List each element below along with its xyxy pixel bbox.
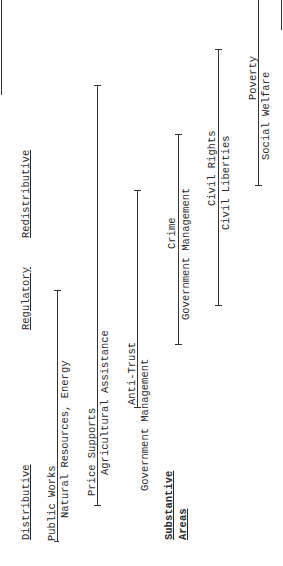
range-line-anti-trust — [137, 190, 138, 408]
axis-label-areas: Areas — [177, 508, 189, 540]
header-rule — [1, 0, 2, 95]
range-tick — [175, 134, 182, 135]
range-tick — [94, 505, 101, 506]
range-line-agriculture — [97, 85, 98, 506]
range-line-crime — [178, 134, 179, 345]
range-tick — [54, 290, 61, 291]
header-rule-right — [281, 0, 282, 30]
range-tick — [175, 344, 182, 345]
category-redistributive: Redistributive — [20, 150, 32, 238]
area-natural-resources: Natural Resources, Energy — [59, 360, 71, 518]
range-line-public-works — [57, 290, 58, 542]
range-tick — [215, 49, 222, 50]
category-distributive: Distributive — [20, 464, 32, 540]
category-regulatory: Regulatory — [20, 267, 32, 330]
range-tick — [54, 541, 59, 542]
area-agricultural-assistance: Agricultural Assistance — [99, 330, 111, 475]
area-social-welfare: Social Welfare — [260, 72, 272, 160]
range-line-civil-rights — [218, 49, 219, 306]
range-tick — [255, 185, 262, 186]
range-tick — [134, 190, 141, 191]
range-tick — [215, 305, 222, 306]
area-government-management-2: Government Management — [180, 188, 192, 320]
area-civil-liberties: Civil Liberties — [220, 135, 232, 230]
range-line-poverty — [258, 0, 259, 186]
area-government-management-1: Government Management — [139, 359, 151, 491]
area-civil-rights: Civil Rights — [206, 130, 218, 206]
axis-label-substantive: Substantive — [163, 471, 175, 540]
range-tick — [94, 85, 101, 86]
area-crime: Crime — [166, 217, 178, 249]
